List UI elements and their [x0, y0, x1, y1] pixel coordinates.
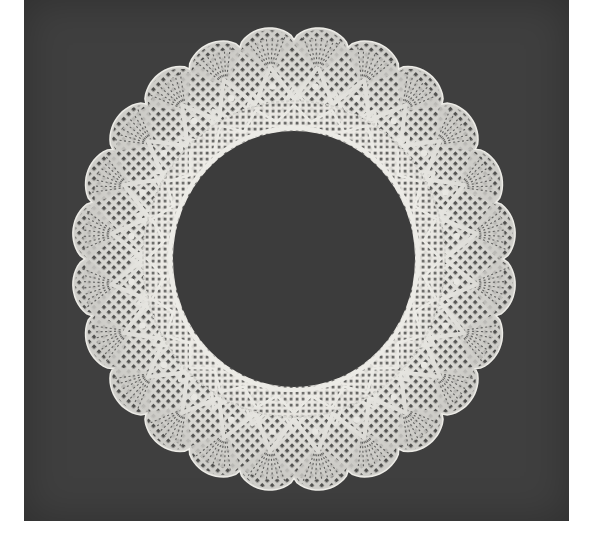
- lace-doily: [74, 29, 515, 490]
- lace-collar-photo: [0, 0, 595, 545]
